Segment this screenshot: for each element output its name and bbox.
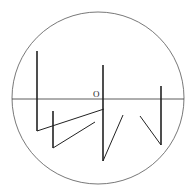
origin-label: O (93, 89, 100, 99)
stroke-4-diagonal (140, 116, 161, 145)
stroke-2-diagonal (53, 122, 95, 148)
stroke-1-diagonal (37, 109, 104, 131)
stroke-3-diagonal (103, 115, 123, 161)
vector-group (37, 51, 161, 161)
phasor-diagram: O (0, 0, 195, 196)
